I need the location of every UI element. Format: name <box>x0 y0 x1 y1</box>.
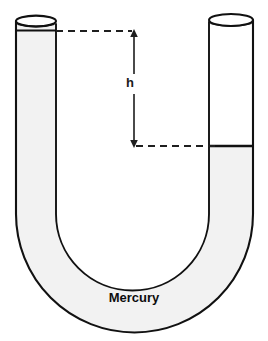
right-limb-air-column <box>209 22 253 146</box>
right-tube-mouth <box>209 14 253 26</box>
mercury-label: Mercury <box>0 291 268 304</box>
right-limb-mercury-fill <box>209 146 253 214</box>
manometer-diagram: h Mercury <box>0 0 268 341</box>
height-label: h <box>126 76 134 89</box>
tube-inner-bore <box>56 26 209 291</box>
left-limb-mercury-fill <box>16 26 56 214</box>
